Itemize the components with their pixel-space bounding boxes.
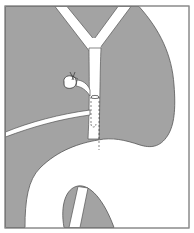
biliary-anatomy-figure — [0, 0, 194, 233]
